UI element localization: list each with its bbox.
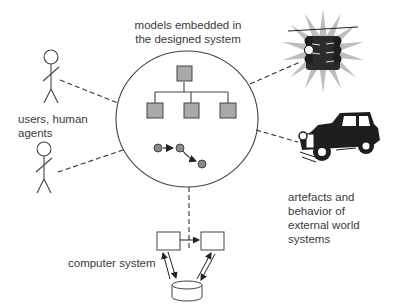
connector-car: [256, 130, 298, 142]
connector-user1: [60, 80, 118, 103]
models-label: models embedded in the designed system: [128, 18, 248, 46]
connector-traffic-light: [250, 62, 300, 84]
hierarchy-child-node: [184, 103, 199, 118]
vintage-car-icon: [299, 112, 380, 162]
hierarchy-child-node: [147, 103, 163, 118]
computer-system-diagram: [157, 232, 224, 301]
state-sequence-model: [154, 144, 206, 168]
database-icon: [172, 281, 202, 301]
external-label-line: systems: [288, 232, 360, 246]
traffic-light-icon: [282, 9, 364, 93]
hierarchy-child-node: [220, 103, 236, 118]
hierarchy-root-node: [177, 66, 192, 81]
connector-user2: [58, 150, 123, 172]
models-label-line: the designed system: [128, 32, 248, 46]
computer-system-label: computer system: [68, 256, 156, 270]
state-node: [176, 144, 184, 152]
external-label-line: artefacts and: [288, 190, 360, 204]
diagram-canvas: [0, 0, 396, 307]
users-label-line: users, human: [18, 112, 88, 126]
process-box: [157, 232, 180, 250]
external-label-line: external world: [288, 218, 360, 232]
process-box: [201, 232, 224, 250]
models-label-line: models embedded in: [128, 18, 248, 32]
state-node: [198, 160, 206, 168]
state-node: [154, 144, 162, 152]
external-label-line: behavior of: [288, 204, 360, 218]
users-label: users, human agents: [18, 112, 88, 140]
users-label-line: agents: [18, 126, 88, 140]
stick-figure-icon: [43, 50, 59, 103]
stick-figure-icon: [36, 142, 52, 193]
hierarchy-model: [147, 66, 236, 118]
external-systems-label: artefacts and behavior of external world…: [288, 190, 360, 246]
